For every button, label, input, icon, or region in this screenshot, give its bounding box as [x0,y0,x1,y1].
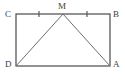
geometry-figure: C B D A M [0,0,125,80]
rectangle-outline [16,14,110,66]
vertex-label-m: M [58,2,66,11]
vertex-label-d: D [5,60,12,69]
segment-m-a [63,14,110,66]
vertex-label-a: A [113,60,120,69]
vertex-label-c: C [5,10,11,19]
segment-m-d [16,14,63,66]
geometry-figure-canvas [0,0,125,80]
vertex-label-b: B [113,10,119,19]
